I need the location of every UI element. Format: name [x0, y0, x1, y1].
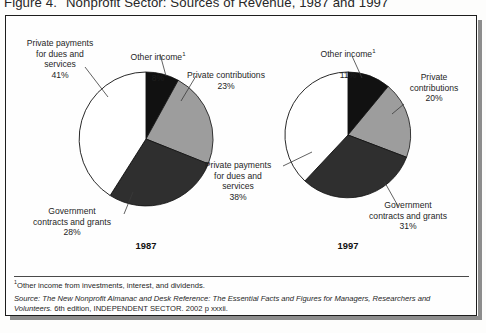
- label-1987-other-income-pct: 8%: [152, 73, 164, 83]
- footnote: 1Other income from investments, interest…: [14, 281, 470, 292]
- label-1987-private-payments: Private payments for dues and services 4…: [18, 38, 102, 80]
- source-citation: Source: The New Nonprofit Almanac and De…: [14, 294, 470, 315]
- year-label-1997: 1997: [312, 240, 384, 251]
- source-rest: 6th edition, INDEPENDENT SECTOR. 2002 p …: [54, 304, 228, 313]
- label-1987-government: Government contracts and grants 28%: [18, 206, 126, 238]
- footnote-marker-1997: 1: [372, 48, 375, 54]
- label-1987-other-income-text: Other income: [131, 52, 183, 62]
- label-1997-private-payments: Private payments for dues and services 3…: [192, 160, 284, 202]
- figure-number: Figure 4.: [4, 0, 57, 10]
- figure-title: Figure 4.Nonprofit Sector: Sources of Re…: [4, 0, 482, 15]
- footnote-text: Other income from investments, interest,…: [17, 281, 205, 290]
- frame-shadow-bottom: [10, 316, 482, 320]
- source-label: Source:: [14, 294, 40, 303]
- figure-title-text: Nonprofit Sector: Sources of Revenue, 19…: [66, 0, 389, 10]
- label-1987-private-contributions: Private contributions 23%: [176, 70, 276, 91]
- label-1997-other-income: Other income1 11%: [300, 38, 396, 80]
- frame-shadow-right: [478, 20, 482, 319]
- footnote-marker-1987: 1: [182, 51, 185, 57]
- label-1997-government: Government contracts and grants 31%: [352, 200, 464, 232]
- label-1997-private-contributions: Private contributions 20%: [398, 72, 470, 104]
- label-1997-other-income-pct: 11%: [340, 70, 357, 80]
- label-1997-other-income-text: Other income: [321, 49, 373, 59]
- year-label-1987: 1987: [110, 240, 182, 251]
- footnote-divider: [14, 276, 469, 277]
- figure-container: Figure 4.Nonprofit Sector: Sources of Re…: [0, 0, 486, 333]
